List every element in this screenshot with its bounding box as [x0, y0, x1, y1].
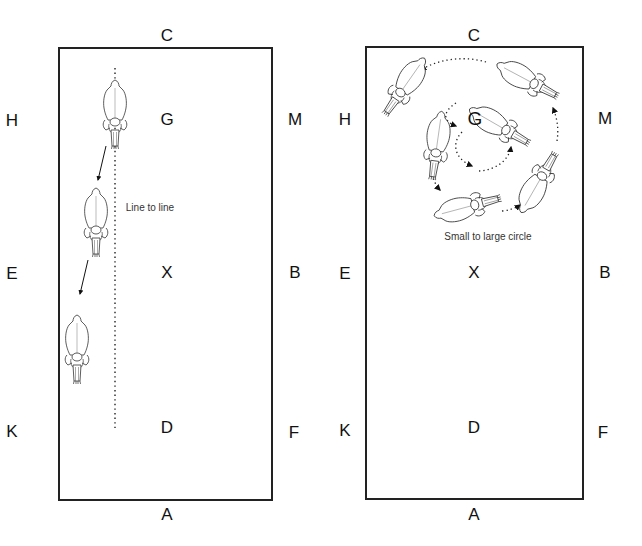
marker-m: M: [598, 110, 612, 127]
marker-h: H: [339, 111, 351, 128]
marker-f: F: [598, 424, 608, 441]
marker-e: E: [339, 265, 350, 282]
caption-small-to-large-circle: Small to large circle: [444, 231, 531, 242]
marker-a: A: [468, 506, 479, 523]
marker-k: K: [339, 422, 350, 439]
right-panel: C H G M E X B K D F A Small to large cir…: [0, 0, 642, 546]
marker-d: D: [468, 419, 480, 436]
marker-g: G: [468, 109, 483, 128]
marker-x: X: [468, 264, 479, 281]
marker-c: C: [468, 27, 480, 44]
marker-b: B: [599, 264, 610, 281]
